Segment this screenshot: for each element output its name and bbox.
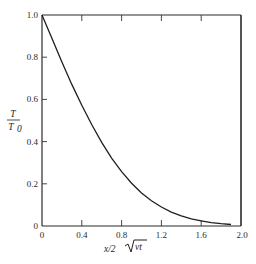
y-tick-label: 0.2 xyxy=(27,179,38,189)
x-tick-label: 1.2 xyxy=(156,230,167,240)
y-axis-label: T T 0 xyxy=(7,109,22,134)
y-tick-label: 0.4 xyxy=(27,137,39,147)
y-tick-label: 0.6 xyxy=(27,94,39,104)
data-line xyxy=(42,15,231,225)
x-tick-label: 0 xyxy=(40,230,45,240)
y-tick-label: 1.0 xyxy=(27,10,39,20)
y-label-denominator-subscript: 0 xyxy=(17,124,22,134)
plot-frame xyxy=(42,15,241,226)
y-axis-ticks: 00.20.40.60.81.0 xyxy=(27,10,47,231)
x-tick-label: 2.0 xyxy=(236,230,248,240)
x-axis-ticks: 00.40.81.21.62.0 xyxy=(40,15,248,240)
y-label-denominator: T xyxy=(8,122,14,132)
y-label-numerator: T xyxy=(10,109,16,119)
y-tick-label: 0 xyxy=(34,221,39,231)
x-label-text: x/2 xyxy=(103,244,116,254)
x-label-sqrt-arg: νt xyxy=(135,242,142,252)
x-axis-label: x/2 νt xyxy=(103,240,147,254)
chart-svg: 00.20.40.60.81.0 00.40.81.21.62.0 T T 0 … xyxy=(0,0,256,264)
y-tick-label: 0.8 xyxy=(27,52,39,62)
x-tick-label: 1.6 xyxy=(196,230,208,240)
x-tick-label: 0.8 xyxy=(116,230,128,240)
x-tick-label: 0.4 xyxy=(76,230,88,240)
